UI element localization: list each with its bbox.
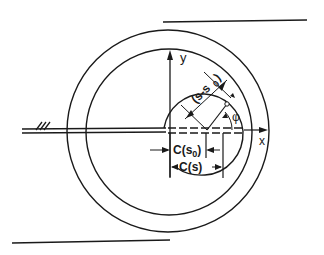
c-s-arrowhead-icon <box>215 164 222 170</box>
c-s-arrowhead-icon <box>171 164 178 170</box>
x-axis-arrowhead-icon <box>259 127 268 133</box>
roll-diagram: y x φ (s-s 0 ) C(s0) C(s) <box>0 0 324 255</box>
c-s0-arrowhead-icon <box>162 147 170 153</box>
dim-tick-lower <box>181 105 207 130</box>
shaft-line-top <box>22 128 166 129</box>
top-web-line <box>163 20 307 22</box>
outer-roll-circle <box>67 30 269 232</box>
point-marker <box>225 102 229 106</box>
y-axis-arrowhead-icon <box>167 50 173 60</box>
c-s-label: C(s) <box>179 160 202 174</box>
bottom-web-line <box>12 240 170 243</box>
inner-spiral-arc <box>164 94 243 175</box>
x-axis-label: x <box>259 134 265 148</box>
svg-text:(s-s: (s-s <box>188 81 213 106</box>
shaft-line-bottom <box>22 132 166 133</box>
c-s0-arrowhead-icon <box>206 147 214 153</box>
y-axis-label: y <box>180 50 187 65</box>
c-s0-label: C(s0) <box>173 143 201 159</box>
s-s0-label: (s-s 0 ) <box>188 71 225 108</box>
phi-label: φ <box>232 110 240 124</box>
